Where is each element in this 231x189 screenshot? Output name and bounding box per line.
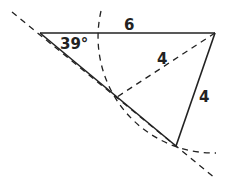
- label-side-top: 6: [124, 16, 134, 34]
- label-dashed-side: 4: [157, 50, 167, 68]
- label-side-right: 4: [199, 88, 209, 106]
- label-angle: 39°: [60, 35, 88, 53]
- triangle-diagram: 6 39° 4 4: [0, 0, 231, 189]
